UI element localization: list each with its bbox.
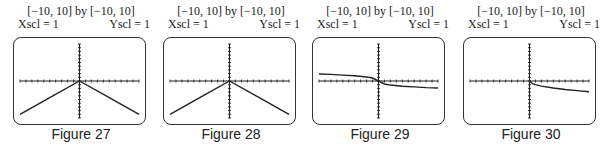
figure-panel: [−10, 10] by [−10, 10] Xscl = 1 Yscl = 1…: [156, 0, 306, 149]
figure-panel: [−10, 10] by [−10, 10] Xscl = 1 Yscl = 1…: [305, 0, 455, 149]
graph-plot: [313, 38, 444, 124]
calculator-screen: [463, 37, 596, 125]
figure-caption: Figure 27: [6, 126, 156, 142]
figure-panel: [−10, 10] by [−10, 10] Xscl = 1 Yscl = 1…: [456, 0, 606, 149]
xscl-label: Xscl = 1: [18, 17, 59, 32]
yscl-label: Yscl = 1: [559, 17, 600, 32]
calculator-screen: [163, 37, 296, 125]
calculator-screen: [312, 37, 445, 125]
figure-caption: Figure 30: [456, 126, 606, 142]
graph-plot: [164, 38, 295, 124]
figure-caption: Figure 28: [156, 126, 306, 142]
xscl-label: Xscl = 1: [468, 17, 509, 32]
graph-plot: [464, 38, 595, 124]
xscl-label: Xscl = 1: [168, 17, 209, 32]
yscl-label: Yscl = 1: [408, 17, 449, 32]
graph-curve: [530, 81, 590, 92]
figure-caption: Figure 29: [305, 126, 455, 142]
calculator-screen: [13, 37, 146, 125]
yscl-label: Yscl = 1: [109, 17, 150, 32]
yscl-label: Yscl = 1: [259, 17, 300, 32]
figure-panel: [−10, 10] by [−10, 10] Xscl = 1 Yscl = 1…: [6, 0, 156, 149]
xscl-label: Xscl = 1: [317, 17, 358, 32]
graph-plot: [14, 38, 145, 124]
